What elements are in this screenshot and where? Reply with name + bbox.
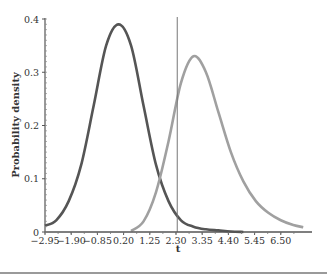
y-tick-label: 0.2 [24,120,39,131]
y-tick-label: 0 [33,227,39,238]
bottom-divider [0,272,327,274]
y-tick-label: 0.3 [24,67,39,78]
x-tick-label: −1.90 [57,235,86,246]
y-tick-label: 0.1 [24,173,39,184]
x-tick-label: 0.20 [113,235,134,246]
density-chart: −2.95−1.90−0.850.201.252.303.354.405.456… [0,0,327,276]
alternative-distribution-curve [131,56,303,231]
plot-curves [45,24,303,232]
x-tick-label: 1.25 [139,235,160,246]
y-axis-title: Probability density [10,71,21,178]
null-distribution-curve [45,24,243,232]
x-tick-label: 4.40 [218,235,239,246]
x-tick-label: 3.35 [192,235,213,246]
x-tick-label: 5.45 [244,235,265,246]
x-tick-label: −0.85 [83,235,112,246]
y-tick-label: 0.4 [24,14,39,25]
x-axis-ticks: −2.95−1.90−0.850.201.252.303.354.405.456… [30,232,293,246]
x-tick-label: 6.50 [270,235,291,246]
y-axis-ticks: 00.10.20.30.4 [24,14,47,238]
axes [45,18,312,232]
x-axis-title: t [176,243,181,254]
